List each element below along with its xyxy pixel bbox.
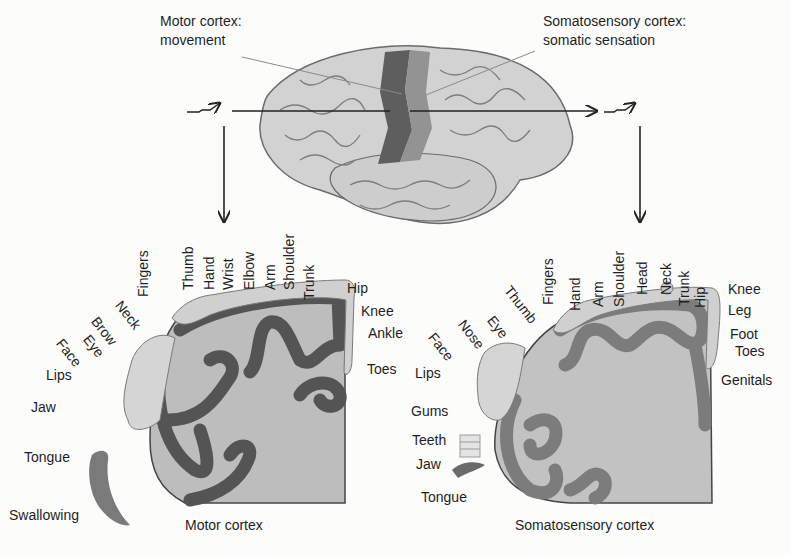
- sensory-label-arm: Arm: [591, 281, 605, 307]
- motor-label-wrist: Wrist: [221, 258, 235, 290]
- sensory-label-shoulder: Shoulder: [612, 251, 626, 307]
- brain-illustration: [260, 46, 573, 223]
- sensory-label-jaw: Jaw: [416, 457, 441, 471]
- sensory-label-head: Head: [635, 262, 649, 295]
- motor-label-tongue: Tongue: [24, 450, 70, 464]
- motor-label-lips: Lips: [46, 368, 72, 382]
- sensory-label-hip: Hip: [693, 287, 707, 308]
- sensory-label-knee: Knee: [728, 282, 761, 296]
- sensory-label-tongue: Tongue: [421, 490, 467, 504]
- view-direction-arrow-left: [187, 103, 220, 112]
- motor-callout-subtitle: movement: [160, 33, 225, 47]
- sensory-label-lips: Lips: [415, 366, 441, 380]
- sensory-cortex-caption: Somatosensory cortex: [515, 518, 654, 532]
- motor-label-ankle: Ankle: [368, 326, 403, 340]
- sensory-callout-title: Somatosensory cortex:: [543, 14, 686, 28]
- motor-label-elbow: Elbow: [242, 252, 256, 290]
- sensory-label-leg: Leg: [728, 303, 751, 317]
- sensory-label-hand: Hand: [568, 278, 582, 311]
- motor-cortex-caption: Motor cortex: [185, 518, 263, 532]
- sensory-label-neck: Neck: [659, 263, 673, 295]
- sensory-label-gums: Gums: [411, 404, 448, 418]
- sensory-label-teeth: Teeth: [412, 433, 446, 447]
- motor-label-swallowing: Swallowing: [9, 508, 79, 522]
- sensory-callout-subtitle: somatic sensation: [543, 33, 655, 47]
- sensory-label-foot: Foot: [730, 327, 758, 341]
- motor-label-hip: Hip: [347, 281, 368, 295]
- sensory-label-toes: Toes: [735, 344, 765, 358]
- motor-label-hand: Hand: [202, 257, 216, 290]
- sensory-label-genitals: Genitals: [721, 373, 772, 387]
- motor-label-jaw: Jaw: [31, 400, 56, 414]
- motor-label-trunk: Trunk: [302, 265, 316, 300]
- sensory-label-fingers: Fingers: [541, 258, 555, 305]
- motor-label-toes: Toes: [367, 362, 397, 376]
- motor-label-fingers: Fingers: [136, 250, 150, 297]
- motor-callout-title: Motor cortex:: [160, 14, 242, 28]
- motor-label-shoulder: Shoulder: [282, 234, 296, 290]
- motor-label-knee: Knee: [361, 304, 394, 318]
- motor-label-arm: Arm: [263, 264, 277, 290]
- sensory-label-trunk: Trunk: [677, 271, 691, 306]
- view-direction-arrow-right: [604, 103, 635, 112]
- motor-label-thumb: Thumb: [181, 246, 195, 290]
